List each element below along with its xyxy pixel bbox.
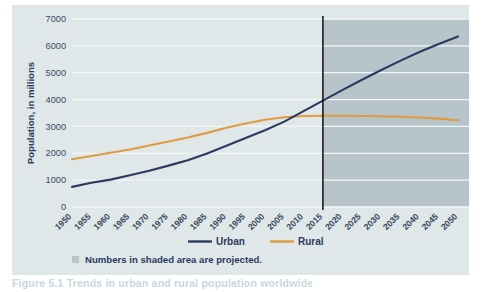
x-axis-tick-labels: 1950195519601965197019751980198519901995…	[53, 211, 460, 232]
x-tick-label: 2025	[342, 211, 363, 232]
y-tick-label: 2000	[46, 148, 66, 158]
plot-shaded-projection-region	[323, 19, 469, 207]
y-axis-tick-labels: 01000200030004000500060007000	[46, 14, 66, 212]
y-tick-label: 3000	[46, 122, 66, 132]
x-tick-label: 2005	[265, 211, 286, 232]
x-tick-label: 1975	[149, 211, 170, 232]
x-tick-label: 2015	[304, 211, 325, 232]
y-tick-label: 6000	[46, 41, 66, 51]
x-tick-label: 2030	[362, 211, 383, 232]
figure-root: 01000200030004000500060007000 1950195519…	[0, 0, 481, 292]
figure-caption: Figure 5.1 Trends in urban and rural pop…	[12, 278, 312, 292]
x-tick-label: 2040	[400, 211, 421, 232]
x-tick-label: 1950	[53, 211, 74, 232]
legend-label-urban: Urban	[216, 236, 245, 247]
figure-caption-text: Figure 5.1 Trends in urban and rural pop…	[12, 278, 312, 289]
x-tick-label: 1970	[130, 211, 151, 232]
chart-legend: Urban Rural	[188, 236, 324, 247]
x-tick-label: 1990	[207, 211, 228, 232]
x-tick-label: 1985	[188, 211, 209, 232]
chart-panel: 01000200030004000500060007000 1950195519…	[12, 5, 469, 275]
x-tick-label: 2045	[420, 211, 441, 232]
x-tick-label: 2050	[439, 211, 460, 232]
y-tick-label: 7000	[46, 14, 66, 24]
legend-label-rural: Rural	[298, 236, 324, 247]
x-tick-label: 2000	[246, 211, 267, 232]
projection-note-swatch	[72, 256, 79, 263]
y-axis-title: Population, in millions	[25, 62, 36, 164]
x-tick-label: 1980	[169, 211, 190, 232]
x-tick-label: 1960	[91, 211, 112, 232]
projection-note-label: Numbers in shaded area are projected.	[85, 254, 262, 265]
population-line-chart: 01000200030004000500060007000 1950195519…	[12, 5, 469, 275]
y-tick-label: 1000	[46, 175, 66, 185]
x-tick-label: 2035	[381, 211, 402, 232]
projection-note: Numbers in shaded area are projected.	[72, 254, 262, 265]
y-tick-label: 0	[61, 202, 66, 212]
y-tick-label: 5000	[46, 68, 66, 78]
x-tick-label: 2020	[323, 211, 344, 232]
x-tick-label: 1965	[111, 211, 132, 232]
y-tick-label: 4000	[46, 95, 66, 105]
x-tick-label: 2010	[284, 211, 305, 232]
x-tick-label: 1995	[227, 211, 248, 232]
x-tick-label: 1955	[72, 211, 93, 232]
